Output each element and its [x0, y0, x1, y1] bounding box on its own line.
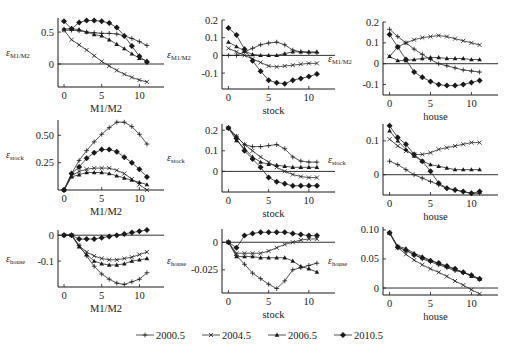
data-point: [91, 236, 97, 242]
plus-marker: [114, 32, 119, 37]
diamond-marker: [121, 231, 127, 237]
data-point: [129, 279, 134, 284]
y-tick-label: 0: [374, 283, 379, 294]
data-point: [419, 74, 425, 80]
x-tick-label: 0: [61, 290, 66, 301]
data-point: [225, 239, 231, 245]
diamond-marker: [99, 18, 105, 24]
cross-marker: [412, 258, 416, 262]
diamond-marker: [460, 82, 466, 88]
axis-frame: [222, 229, 335, 293]
plus-marker: [250, 144, 255, 149]
diamond-marker: [242, 233, 248, 239]
series-2010-5: [387, 123, 483, 197]
y-tick-label: 0.2: [205, 15, 218, 26]
panel-m1m2-response-to-m1m2: 051000.5M1/M2εM1/M2: [6, 18, 164, 114]
cross-marker: [107, 64, 111, 68]
data-point: [306, 160, 311, 165]
x-tick-label: 0: [61, 193, 66, 204]
legend-label: 2010.5: [354, 330, 383, 341]
plus-marker: [107, 31, 112, 36]
legend: 2000.5 2004.5 2006.5 2010.5: [136, 330, 383, 341]
plus-marker: [274, 40, 279, 45]
data-point: [226, 40, 231, 44]
series-line: [64, 168, 147, 190]
data-point: [290, 183, 296, 189]
data-point: [444, 185, 450, 191]
x-axis-label: stock: [262, 105, 285, 116]
diamond-marker: [460, 269, 466, 275]
y-tick-label: 0.25: [36, 157, 54, 168]
y-axis-label: εstock: [167, 152, 185, 164]
y-tick-label: 0.1: [366, 37, 379, 48]
data-point: [250, 144, 255, 149]
x-tick-label: 10: [466, 198, 477, 209]
data-point: [306, 74, 312, 80]
x-axis-label: stock: [262, 309, 285, 320]
panel-house-response-to-stock: 0510-0.0250stockεhouse: [167, 229, 335, 320]
y-axis-label: εM1/M2: [328, 53, 352, 65]
y-tick-label: 0: [49, 59, 54, 70]
diamond-marker: [282, 229, 288, 235]
series-2000-5: [226, 126, 319, 165]
plus-marker: [258, 42, 263, 47]
y-tick-label: 0: [374, 169, 379, 180]
diamond-marker: [419, 74, 425, 80]
data-point: [411, 252, 417, 258]
diamond-marker: [114, 232, 120, 238]
cross-marker: [428, 267, 432, 271]
diamond-marker: [477, 77, 483, 83]
series-2004-5: [226, 237, 319, 255]
cross-marker: [100, 59, 104, 63]
data-point: [76, 236, 82, 242]
series-2010-5: [225, 229, 319, 250]
data-point: [107, 277, 112, 282]
diamond-marker: [69, 232, 75, 238]
cross-marker: [420, 263, 424, 267]
data-point: [114, 149, 120, 155]
plus-marker: [306, 160, 311, 165]
plus-marker: [145, 43, 150, 48]
diamond-marker: [129, 43, 135, 49]
data-point: [84, 236, 90, 242]
data-point: [226, 53, 231, 58]
data-point: [274, 229, 280, 235]
series-line: [390, 35, 480, 86]
data-point: [460, 189, 466, 195]
x-tick-label: 10: [134, 290, 145, 301]
panel-house-response-to-m1m2: 0510-0.10M1/M2εhouse: [6, 227, 164, 314]
y-tick-label: 0.50: [36, 130, 54, 141]
x-tick-label: 10: [304, 195, 315, 206]
cross-marker: [77, 43, 81, 47]
plus-marker: [282, 42, 287, 47]
diamond-marker: [250, 58, 256, 64]
data-point: [436, 61, 441, 66]
data-point: [461, 68, 466, 73]
data-point: [91, 18, 97, 24]
data-point: [99, 18, 105, 24]
x-tick-label: 10: [466, 298, 477, 309]
data-point: [428, 267, 432, 271]
data-point: [315, 261, 320, 266]
x-axis-label: house: [423, 311, 448, 322]
diamond-marker: [129, 230, 135, 236]
data-point: [298, 75, 304, 81]
y-tick-label: -0.1: [37, 256, 54, 267]
series-2006-5: [62, 26, 149, 62]
data-point: [259, 155, 263, 159]
x-tick-label: 10: [134, 193, 145, 204]
series-line: [228, 128, 316, 177]
cross-marker: [137, 253, 141, 257]
cross-marker: [251, 149, 255, 153]
plus-marker: [387, 159, 392, 164]
series-line: [390, 36, 480, 57]
data-point: [437, 270, 441, 274]
data-point: [461, 283, 465, 287]
y-axis-label: εstock: [328, 154, 346, 166]
data-point: [427, 78, 433, 84]
data-point: [314, 71, 320, 77]
data-point: [145, 43, 150, 48]
data-point: [306, 183, 312, 189]
x-tick-label: 5: [99, 90, 104, 101]
data-point: [250, 58, 256, 64]
